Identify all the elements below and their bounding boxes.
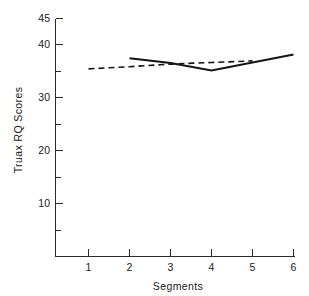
x-tick-label-2: 2 (127, 261, 133, 273)
x-tick-label-5: 5 (250, 261, 256, 273)
x-tick-label-3: 3 (168, 261, 174, 273)
y-tick-label-45: 45 (38, 12, 50, 24)
x-tick-label-1: 1 (86, 261, 92, 273)
y-tick-label-30: 30 (38, 91, 50, 103)
chart-container: 45 40 30 20 10 1 2 3 4 5 6 Segments Trua… (0, 0, 309, 296)
y-tick-label-40: 40 (38, 38, 50, 50)
y-axis-title: Truax RQ Scores (12, 87, 24, 174)
y-tick-label-20: 20 (38, 144, 50, 156)
x-axis-title: Segments (153, 280, 203, 292)
x-tick-label-6: 6 (291, 261, 297, 273)
x-tick-label-4: 4 (209, 261, 215, 273)
line-chart: 45 40 30 20 10 1 2 3 4 5 6 Segments Trua… (0, 0, 309, 296)
y-tick-label-10: 10 (38, 197, 50, 209)
